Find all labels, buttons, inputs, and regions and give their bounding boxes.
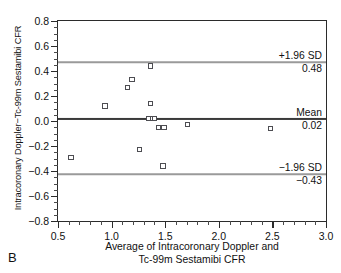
data-point (148, 63, 153, 68)
reference-value-mean-bias: 0.02 (302, 121, 322, 132)
x-axis-minor-tick (283, 221, 284, 225)
x-axis-tick (219, 221, 220, 228)
y-axis-tick-label: −0.6 (28, 190, 49, 202)
reference-label-mean-bias: Mean (296, 108, 322, 119)
y-axis-minor-tick (54, 40, 58, 41)
data-point (129, 77, 134, 82)
reference-line-mean-bias (58, 117, 326, 119)
x-axis-minor-tick (122, 221, 123, 225)
x-axis-tick (165, 221, 166, 228)
data-point (148, 101, 153, 106)
x-axis-minor-tick (305, 221, 306, 225)
x-axis-minor-tick (154, 221, 155, 225)
x-axis-minor-tick (144, 221, 145, 225)
x-axis-minor-tick (197, 221, 198, 225)
y-axis-minor-tick (54, 152, 58, 153)
y-axis-tick-label: 0.6 (34, 40, 49, 52)
x-axis-title-line-1: Average of Intracoronary Doppler and (57, 240, 327, 253)
y-axis-title: Intracoronary Doppler−Tc-99m Sestamibi C… (13, 6, 23, 231)
y-axis-minor-tick (54, 159, 58, 160)
x-axis-minor-tick (262, 221, 263, 225)
reference-label-lower-limit-of-agreement: −1.96 SD (279, 163, 322, 174)
reference-value-lower-limit-of-agreement: −0.43 (296, 176, 322, 187)
y-axis-minor-tick (54, 215, 58, 216)
panel-letter: B (8, 250, 17, 265)
data-point (185, 122, 190, 127)
x-axis-minor-tick (208, 221, 209, 225)
x-axis-tick (112, 221, 113, 228)
y-axis-minor-tick (54, 84, 58, 85)
x-axis-tick (58, 221, 59, 228)
x-axis-minor-tick (251, 221, 252, 225)
y-axis-tick (51, 21, 58, 22)
x-axis-minor-tick (187, 221, 188, 225)
plot-area: 0.80.60.40.20.0−0.2−0.4−0.6−0.80.51.01.5… (57, 20, 327, 222)
data-point (161, 125, 166, 130)
y-axis-tick (51, 196, 58, 197)
data-point (152, 116, 157, 121)
y-axis-minor-tick (54, 202, 58, 203)
y-axis-tick-label: 0.4 (34, 65, 49, 77)
x-axis-minor-tick (69, 221, 70, 225)
y-axis-minor-tick (54, 27, 58, 28)
y-axis-minor-tick (54, 134, 58, 135)
x-axis-tick (326, 221, 327, 228)
x-axis-title: Average of Intracoronary Doppler and Tc-… (57, 240, 327, 267)
y-axis-tick (51, 171, 58, 172)
reference-value-upper-limit-of-agreement: 0.48 (302, 64, 322, 75)
x-axis-minor-tick (133, 221, 134, 225)
y-axis-tick (51, 146, 58, 147)
y-axis-tick (51, 221, 58, 222)
data-point (160, 163, 165, 168)
x-axis-minor-tick (79, 221, 80, 225)
y-axis-minor-tick (54, 165, 58, 166)
y-axis-tick (51, 96, 58, 97)
y-axis-minor-tick (54, 90, 58, 91)
y-axis-tick-label: −0.8 (28, 215, 49, 227)
y-axis-minor-tick (54, 115, 58, 116)
y-axis-minor-tick (54, 209, 58, 210)
y-axis-minor-tick (54, 59, 58, 60)
y-axis-minor-tick (54, 177, 58, 178)
y-axis-minor-tick (54, 102, 58, 103)
x-axis-minor-tick (90, 221, 91, 225)
bland-altman-figure: Intracoronary Doppler−Tc-99m Sestamibi C… (0, 0, 341, 273)
y-axis-minor-tick (54, 52, 58, 53)
x-axis-tick (272, 221, 273, 228)
y-axis-minor-tick (54, 184, 58, 185)
y-axis-minor-tick (54, 190, 58, 191)
y-axis-minor-tick (54, 34, 58, 35)
y-axis-tick (51, 121, 58, 122)
x-axis-minor-tick (315, 221, 316, 225)
x-axis-minor-tick (101, 221, 102, 225)
x-axis-minor-tick (294, 221, 295, 225)
y-axis-minor-tick (54, 109, 58, 110)
x-axis-title-line-2: Tc-99m Sestamibi CFR (57, 253, 327, 266)
data-point (268, 126, 273, 131)
y-axis-minor-tick (54, 77, 58, 78)
x-axis-minor-tick (240, 221, 241, 225)
y-axis-tick (51, 71, 58, 72)
data-point (125, 85, 130, 90)
y-axis-tick-label: 0.8 (34, 15, 49, 27)
data-point (102, 103, 107, 108)
y-axis-minor-tick (54, 140, 58, 141)
x-axis-minor-tick (230, 221, 231, 225)
y-axis-minor-tick (54, 65, 58, 66)
x-axis-minor-tick (176, 221, 177, 225)
data-point (68, 155, 73, 160)
y-axis-tick-label: 0.2 (34, 90, 49, 102)
y-axis-tick-label: −0.2 (28, 140, 49, 152)
y-axis-tick-label: 0.0 (34, 115, 49, 127)
y-axis-tick-label: −0.4 (28, 165, 49, 177)
data-point (137, 147, 142, 152)
y-axis-minor-tick (54, 127, 58, 128)
reference-label-upper-limit-of-agreement: +1.96 SD (279, 51, 322, 62)
y-axis-tick (51, 46, 58, 47)
